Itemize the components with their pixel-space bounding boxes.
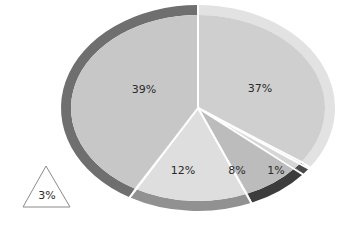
slice-label: 37% [248,82,272,95]
slice-label: 8% [228,164,245,177]
slice-label: 1% [267,164,284,177]
callout-triangle: 3% [23,166,70,207]
pie-slices [61,3,335,211]
callout-label: 3% [38,189,55,202]
pie-chart: 37%1%8%12%39% 3% [0,0,353,226]
slice-label: 39% [132,83,156,96]
slice-label: 12% [171,164,195,177]
